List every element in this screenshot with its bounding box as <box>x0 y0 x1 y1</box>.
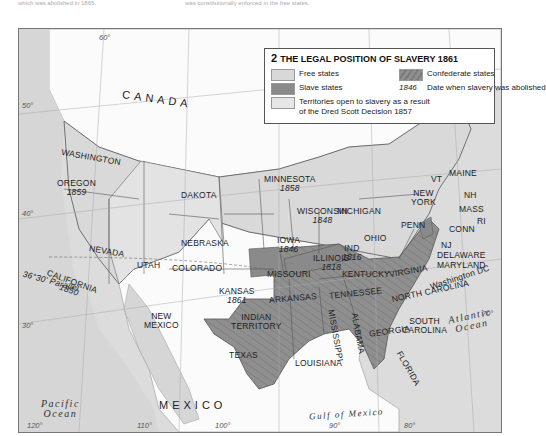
legend-date-sample: 1846 <box>399 83 417 93</box>
label-nebraska: Nebraska <box>181 239 229 248</box>
label-minnesota: Minnesota1858 <box>264 175 316 193</box>
swatch-free-states <box>271 69 295 81</box>
degree-110: 110° <box>137 421 152 430</box>
label-maine: Maine <box>449 169 477 178</box>
degree-30: 30° <box>22 321 33 330</box>
label-new-york: NEWYORK <box>411 189 436 207</box>
label-kentucky: Kentucky <box>342 270 390 279</box>
label-indian-territory: INDIANTERRITORY <box>231 313 282 331</box>
swatch-slave-states <box>271 83 295 95</box>
legend-date-abolished: Date when slavery was abolished <box>427 83 546 93</box>
swatch-confederate-states <box>399 69 423 81</box>
label-missouri: Missouri <box>267 270 311 279</box>
label-kansas: Kansas1861 <box>219 287 255 305</box>
degree-120: 120° <box>27 421 43 430</box>
degree-40: 40° <box>22 209 33 218</box>
label-oregon: Oregon1859 <box>57 179 96 197</box>
label-ri: RI <box>477 217 486 226</box>
legend-free-states: Free states <box>299 69 339 79</box>
label-mexico: MEXICO <box>159 401 226 410</box>
label-michigan: Michigan <box>337 207 381 216</box>
label-mass: Mass <box>459 205 484 214</box>
degree-60: 60° <box>99 33 110 42</box>
swatch-territories <box>271 97 295 109</box>
label-new-mexico: NEWMEXICO <box>144 312 179 330</box>
label-delaware: Delaware <box>437 251 486 260</box>
header-right-fragment: was constitutionally enforced in the fre… <box>185 0 309 6</box>
label-ohio: Ohio <box>364 234 387 243</box>
legend-title: 2 The legal position of slavery 1861 <box>271 52 458 64</box>
label-pacific-ocean: PacificOcean <box>41 399 80 419</box>
legend-slave-states: Slave states <box>299 83 343 93</box>
label-louisiana: Louisiana <box>295 359 342 368</box>
header-left-fragment: which was abolished in 1865. <box>18 0 96 6</box>
label-vt: VT <box>431 175 442 184</box>
legend-territories: Territories open to slavery as a resulto… <box>299 97 430 117</box>
label-iowa: Iowa1846 <box>277 236 300 254</box>
label-colorado: Colorado <box>172 264 222 273</box>
label-penn: Penn <box>401 221 425 230</box>
degree-100: 100° <box>215 421 231 430</box>
map-legend: 2 The legal position of slavery 1861 Fre… <box>264 48 495 124</box>
label-conn: Conn <box>449 225 475 234</box>
degree-50: 50° <box>22 101 33 110</box>
label-utah: Utah <box>137 261 160 270</box>
label-nh: NH <box>464 191 477 200</box>
label-nj: NJ <box>441 241 452 250</box>
degree-80: 80° <box>404 421 415 430</box>
label-indiana: Ind1816 <box>342 244 362 262</box>
label-texas: Texas <box>229 351 258 360</box>
degree-90: 90° <box>329 421 340 430</box>
legend-confederate-states: Confederate states <box>427 69 495 79</box>
degree-70: 70° <box>482 309 493 318</box>
label-dakota: Dakota <box>181 191 217 200</box>
